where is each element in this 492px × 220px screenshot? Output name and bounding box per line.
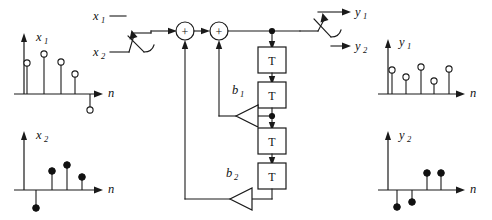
- gain-b2-label-sub: 2: [234, 172, 239, 182]
- output-crossover-tail: [331, 30, 341, 37]
- y2-marker-2: [424, 170, 431, 177]
- x2-marker-0: [33, 205, 40, 212]
- x2-x-axis-arrow: [94, 187, 103, 194]
- x2-marker-1: [49, 168, 56, 175]
- output-crossover-up-arrow: [321, 13, 329, 23]
- x1-input-label-sub: 1: [101, 15, 105, 25]
- y2-marker-3: [438, 170, 445, 177]
- gain-b1-label: b: [232, 83, 238, 97]
- y2-marker-0: [394, 204, 401, 211]
- adder2-input-arrow: [201, 28, 210, 34]
- y1-marker-2: [418, 64, 424, 70]
- y1-output-label: y: [353, 5, 361, 19]
- x2-signal-plot: x 2 n: [14, 128, 114, 211]
- y1-y-axis-arrow: [385, 39, 391, 48]
- y1-x-axis-label: n: [470, 86, 476, 100]
- x1-marker-3: [72, 71, 78, 77]
- gain-b1-label-sub: 1: [240, 89, 244, 99]
- output-crossover-switch[interactable]: [300, 13, 341, 37]
- y2-plot-title: y: [397, 128, 405, 142]
- delay-1-label: T: [268, 54, 276, 68]
- y2-marker-1: [409, 199, 416, 206]
- x2-plot-title: x: [35, 128, 42, 142]
- x2-input-label-sub: 2: [101, 51, 106, 61]
- y1-marker-0: [389, 67, 395, 73]
- x1-crossover-diagonal: [128, 36, 144, 52]
- y2-x-axis-label: n: [470, 182, 476, 196]
- input-section: x 1 x 2: [92, 9, 154, 61]
- input-crossover-switch[interactable]: [110, 30, 154, 52]
- x1-marker-2: [58, 59, 64, 65]
- adder-1: +: [176, 22, 194, 40]
- x2-stems: [33, 162, 86, 212]
- output-section: y 1 y 2: [318, 5, 368, 55]
- y1-output-arrow: [342, 9, 351, 16]
- delay-3-label: T: [268, 135, 276, 149]
- x1-y-axis-arrow: [21, 33, 27, 42]
- x1-plot-title: x: [35, 30, 42, 44]
- x2-plot-title-sub: 2: [44, 134, 49, 144]
- adder-2: +: [210, 22, 228, 40]
- adder-1-symbol: +: [182, 25, 189, 39]
- delay-chain: T T T T: [258, 34, 286, 189]
- forward-path: + +: [151, 22, 300, 40]
- x2-x-axis-label: n: [108, 182, 114, 196]
- y1-plot-title-sub: 1: [407, 41, 411, 51]
- x1-signal-plot: x 1 n: [14, 30, 114, 113]
- x1-marker-1: [41, 51, 47, 57]
- x1-plot-title-sub: 1: [44, 36, 48, 46]
- delay-line-tap-node: [269, 28, 275, 34]
- adder2-feedback-arrow: [216, 40, 222, 49]
- x2-input-label: x: [92, 45, 99, 59]
- y2-x-axis-arrow: [456, 187, 465, 194]
- delay-2-label: T: [268, 89, 276, 103]
- y2-y-axis-arrow: [385, 131, 391, 140]
- gain-b2[interactable]: [230, 188, 252, 210]
- y1-marker-1: [403, 74, 409, 80]
- figure-canvas: x 1 n x 2 n: [0, 0, 492, 220]
- x1-marker-0: [24, 60, 30, 66]
- gain-b1[interactable]: [236, 105, 258, 127]
- adder-2-symbol: +: [216, 25, 223, 39]
- y2-output-label-sub: 2: [363, 45, 368, 55]
- y1-stems: [389, 64, 452, 94]
- y1-marker-3: [431, 78, 437, 84]
- x1-x-axis-arrow: [94, 91, 103, 98]
- signal-flow-diagram: x 1 n x 2 n: [0, 0, 492, 220]
- y1-output-label-sub: 1: [363, 11, 367, 21]
- x1-x-axis-label: n: [108, 86, 114, 100]
- y2-signal-plot: y 2 n: [378, 128, 476, 210]
- delay-4-label: T: [268, 170, 276, 184]
- x2-marker-2: [64, 162, 71, 169]
- crossover-tail: [144, 45, 154, 52]
- gain-b2-label: b: [226, 166, 232, 180]
- x2-y-axis-arrow: [21, 131, 27, 140]
- y2-output-label: y: [353, 39, 361, 53]
- y2-plot-title-sub: 2: [407, 134, 412, 144]
- y1-marker-4: [446, 66, 452, 72]
- x1-marker-4: [87, 107, 93, 113]
- adder1-feedback-arrow: [182, 40, 188, 49]
- x1-stems: [24, 51, 93, 113]
- y1-plot-title: y: [397, 35, 405, 49]
- y1-x-axis-arrow: [456, 91, 465, 98]
- x1-input-label: x: [92, 9, 99, 23]
- y2-output-arrow: [342, 43, 351, 50]
- y1-signal-plot: y 1 n: [378, 35, 476, 100]
- x2-marker-3: [79, 174, 86, 181]
